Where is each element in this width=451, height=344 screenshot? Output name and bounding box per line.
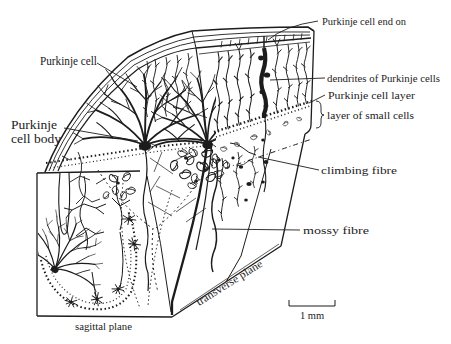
- scale-bar: 1 mm: [289, 300, 335, 321]
- purkinje-axon-thin: [143, 149, 148, 291]
- annotation-layer: Purkinje cell Purkinje cell body Purkinj…: [11, 16, 440, 332]
- transverse-face-art: [212, 36, 311, 272]
- purkinje-cell-body-label-line2: cell body: [11, 133, 61, 146]
- purkinje-cell-body-label-line1: Purkinje: [11, 119, 57, 132]
- climbing-fibre-label: climbing fibre: [321, 165, 397, 176]
- sagittal-plane-label: sagittal plane: [75, 320, 132, 332]
- transverse-plane-label: transverse plane: [194, 257, 265, 308]
- cerebellum-block-diagram: Purkinje cell Purkinje cell body Purkinj…: [0, 0, 451, 344]
- layer-of-small-cells-label: layer of small cells: [327, 110, 414, 121]
- mossy-fibre-label: mossy fibre: [303, 225, 369, 236]
- glomeruli-patch-small: [102, 171, 136, 201]
- mossy-arbor-lower: [64, 176, 130, 296]
- purkinje-cell-body-leader-line: [64, 128, 138, 141]
- figure-canvas: Purkinje cell Purkinje cell body Purkinj…: [0, 0, 451, 344]
- dendrites-leader-line: [270, 78, 325, 80]
- purkinje-cell-label: Purkinje cell: [40, 55, 97, 68]
- purkinje-cell-layer-label: Purkinje cell layer: [328, 90, 416, 101]
- purkinje-fans: [73, 63, 270, 158]
- scale-bar-line: [289, 300, 335, 306]
- glomeruli-patch-large: [170, 146, 232, 189]
- dendrites-label: dendrites of Purkinje cells: [327, 73, 440, 84]
- mossy-fibre-leader-line: [212, 229, 300, 230]
- purkinje-cell-end-on-label: Purkinje cell end on: [322, 16, 407, 27]
- top-surface-band: [45, 27, 314, 172]
- layer-of-small-cells-bracket: [316, 101, 324, 128]
- scale-bar-label: 1 mm: [300, 310, 324, 321]
- purkinje-cell-end-on-drawing: [258, 36, 270, 192]
